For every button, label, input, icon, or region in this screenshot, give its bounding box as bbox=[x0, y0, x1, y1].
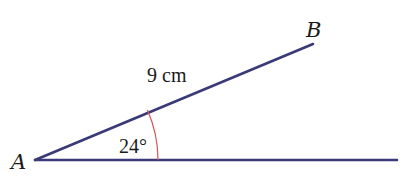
angle-value-label: 24° bbox=[119, 136, 147, 156]
triangle-angle-diagram: A B 9 cm 24° bbox=[0, 0, 412, 179]
segment-ab bbox=[35, 44, 313, 160]
angle-arc bbox=[147, 110, 158, 160]
diagram-canvas bbox=[0, 0, 412, 179]
side-length-label: 9 cm bbox=[147, 65, 186, 85]
point-b-label: B bbox=[306, 20, 321, 41]
point-a-label: A bbox=[11, 152, 26, 173]
